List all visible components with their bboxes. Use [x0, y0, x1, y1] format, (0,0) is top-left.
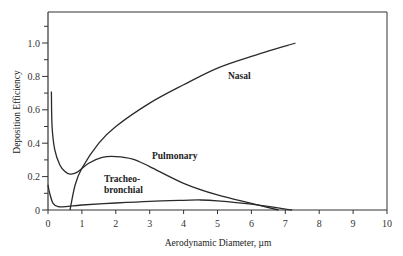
series-curves: [48, 43, 295, 210]
y-tick-label: 1.0: [28, 38, 41, 49]
x-tick-label: 9: [351, 218, 356, 229]
x-tick-label: 6: [249, 218, 254, 229]
tracheo-bronchial-curve: [48, 185, 292, 210]
y-tick-label: 0: [35, 205, 40, 216]
x-tick-label: 1: [79, 218, 84, 229]
x-tick-label: 5: [215, 218, 220, 229]
y-axis-ticks: 00.20.40.60.81.0: [28, 26, 49, 215]
x-tick-label: 2: [113, 218, 118, 229]
x-tick-label: 8: [317, 218, 322, 229]
y-tick-label: 0.4: [28, 138, 41, 149]
x-axis-ticks: 012345678910: [46, 210, 393, 229]
x-tick-label: 4: [181, 218, 186, 229]
nasal-label: Nasal: [228, 71, 251, 81]
x-tick-label: 0: [46, 218, 51, 229]
tracheobronchial-label-line2: bronchial: [104, 185, 143, 195]
x-tick-label: 10: [382, 218, 392, 229]
y-tick-label: 0.8: [28, 71, 41, 82]
pulmonary-label: Pulmonary: [152, 151, 198, 161]
y-tick-label: 0.2: [28, 171, 41, 182]
deposition-chart: 012345678910 00.20.40.60.81.0 Nasal Pulm…: [0, 0, 403, 256]
y-tick-label: 0.6: [28, 104, 41, 115]
plot-frame: [48, 12, 387, 210]
y-axis-title: Deposition Efficiency: [12, 70, 22, 154]
x-tick-label: 3: [147, 218, 152, 229]
tracheobronchial-label-line1: Tracheo-: [104, 174, 140, 184]
x-tick-label: 7: [283, 218, 288, 229]
x-axis-title: Aerodynamic Diameter, µm: [165, 238, 272, 248]
